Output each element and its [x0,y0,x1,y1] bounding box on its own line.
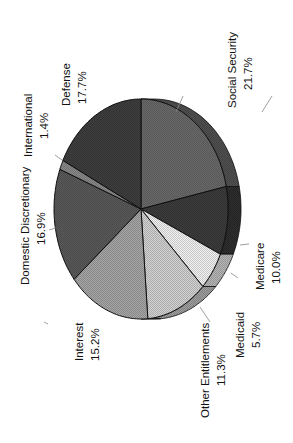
label-social-security: Social Security 21.7% [226,32,254,108]
svg-text:21.7%: 21.7% [242,57,254,90]
label-international: International 1.4% [22,94,50,157]
svg-text:5.7%: 5.7% [250,322,262,348]
svg-text:International: International [22,94,34,157]
label-interest: Interest 15.2% [73,322,101,361]
svg-text:Medicaid: Medicaid [234,312,246,358]
svg-text:15.2%: 15.2% [89,328,101,361]
svg-text:Other Entitlements: Other Entitlements [199,323,211,418]
svg-text:Interest: Interest [73,322,85,361]
svg-text:17.7%: 17.7% [76,71,88,104]
svg-text:Medicare: Medicare [254,243,266,290]
svg-text:11.3%: 11.3% [215,354,227,386]
svg-text:10.0%: 10.0% [270,251,282,284]
svg-text:1.4%: 1.4% [38,113,50,139]
svg-text:Defense: Defense [60,63,72,106]
label-other-entitlements: Other Entitlements 11.3% [199,323,227,418]
budget-pie-chart: Social Security 21.7% Defense 17.7% Inte… [0,0,293,443]
svg-text:16.9%: 16.9% [35,212,47,245]
svg-text:Domestic Discretionary: Domestic Discretionary [19,167,31,285]
label-domestic-discretionary: Domestic Discretionary 16.9% [19,167,47,285]
label-medicare: Medicare 10.0% [254,243,282,290]
pie-slices [54,99,228,319]
label-defense: Defense 17.7% [60,63,88,106]
svg-text:Social Security: Social Security [226,32,238,108]
label-medicaid: Medicaid 5.7% [234,312,262,358]
